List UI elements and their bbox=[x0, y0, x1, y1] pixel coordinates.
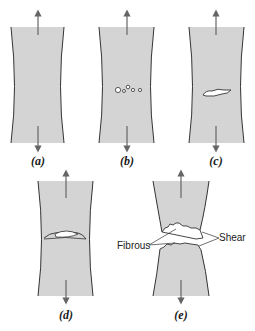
panel-d-specimen bbox=[38, 173, 93, 301]
annotation-shear: Shear bbox=[219, 232, 246, 243]
panel-label-e: (e) bbox=[174, 308, 187, 323]
panel-c-specimen bbox=[189, 13, 244, 149]
panel-a-specimen bbox=[11, 13, 64, 149]
panel-e-specimen bbox=[149, 173, 219, 301]
panel-label-c: (c) bbox=[209, 154, 222, 169]
panel-label-a: (a) bbox=[31, 154, 45, 169]
panel-b-specimen bbox=[99, 13, 154, 149]
panel-label-d: (d) bbox=[59, 308, 73, 323]
panel-label-b: (b) bbox=[120, 154, 134, 169]
annotation-fibrous: Fibrous bbox=[117, 240, 150, 251]
